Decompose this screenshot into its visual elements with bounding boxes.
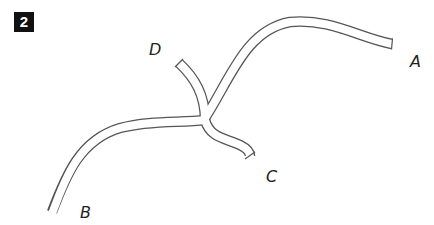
label-a: A [410,54,421,70]
label-b: B [80,205,91,221]
tube-diagram [0,0,434,225]
label-c: C [266,169,277,185]
tube-fills [52,21,392,214]
label-d: D [149,42,161,58]
tube-outlines [52,21,392,212]
